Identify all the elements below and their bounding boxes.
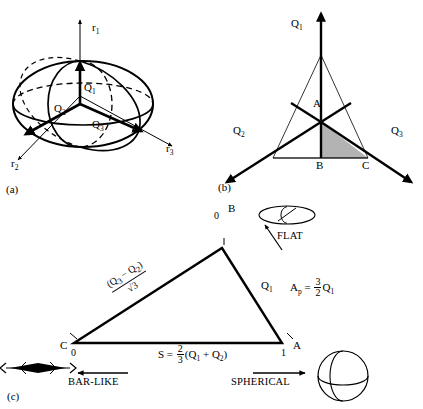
point-label-A-b: A (313, 98, 321, 109)
axis-label-Q1-b: Q1 (291, 18, 303, 32)
vertex-label-B: B (228, 203, 235, 214)
axis-label-Q2-b: Q2 (233, 125, 245, 139)
tick-vertex-C (70, 333, 77, 339)
panel-tag-c: (c) (7, 391, 19, 402)
point-label-C-b: C (362, 160, 369, 171)
vertex-value-A: 1 (281, 348, 286, 358)
axis-r2 (18, 96, 80, 160)
panel-tag-b: (b) (218, 182, 231, 193)
vector-label-Q2: Q2 (54, 103, 66, 117)
panel-c-graphic (0, 200, 423, 409)
sphere-icon (318, 351, 368, 401)
panel-a-graphic (0, 0, 211, 200)
ellipsoid-section-front (80, 61, 140, 151)
vector-Q3 (80, 104, 141, 131)
vertex-value-C: 0 (71, 348, 76, 358)
bar-needle-icon (0, 362, 76, 374)
edge-label-bottom: S = 23(Q1 + Q2) (158, 344, 227, 366)
flat-disc-icon (259, 206, 315, 224)
panel-tag-a: (a) (6, 184, 18, 195)
annotation-spherical-label: SPHERICAL (231, 377, 290, 388)
point-label-B-b: B (316, 160, 323, 171)
axis-label-r2: r2 (11, 158, 18, 172)
formula-Ap: Ap = 32Q1 (290, 277, 334, 299)
annotation-flat-label: FLAT (277, 231, 303, 242)
vector-label-Q1: Q1 (84, 82, 96, 96)
vector-label-Q3: Q3 (92, 119, 104, 133)
vertex-value-B: 0 (214, 211, 219, 221)
annotation-bar-like-label: BAR-LIKE (68, 377, 119, 388)
axis-label-r3: r3 (166, 143, 173, 157)
axis-label-r1: r1 (92, 22, 99, 36)
vertex-label-C: C (60, 340, 67, 351)
ellipsoid-equator-front (13, 104, 153, 125)
vertex-label-A: A (293, 340, 301, 351)
edge-label-right: Q1 (261, 280, 273, 294)
shape-triangle (74, 248, 282, 343)
ellipsoid-equator-back (13, 83, 153, 104)
axis-label-Q3-b: Q3 (391, 125, 403, 139)
figure-root: r1 r2 r3 Q1 Q2 Q3 (a) (0, 0, 423, 409)
median-right (321, 103, 351, 122)
